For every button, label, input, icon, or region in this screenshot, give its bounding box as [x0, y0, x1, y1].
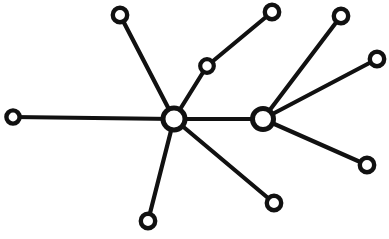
graph-node-hub-left[interactable] [163, 108, 185, 130]
graph-node-leaf-west[interactable] [6, 110, 19, 123]
graph-node-hub-right[interactable] [253, 109, 274, 130]
graph-node-leaf-south-right[interactable] [267, 196, 281, 210]
graph-node-node-mid-upper[interactable] [200, 59, 214, 73]
graph-edge-hub-left-to-leaf-west [13, 117, 174, 119]
graph-node-leaf-south[interactable] [141, 214, 155, 228]
graph-node-leaf-north[interactable] [265, 5, 279, 19]
graph-node-leaf-east[interactable] [370, 52, 384, 66]
node-link-graph [0, 0, 389, 239]
graph-node-leaf-northwest[interactable] [113, 8, 127, 22]
graph-node-leaf-southeast[interactable] [360, 158, 374, 172]
graph-node-leaf-northeast[interactable] [334, 9, 348, 23]
